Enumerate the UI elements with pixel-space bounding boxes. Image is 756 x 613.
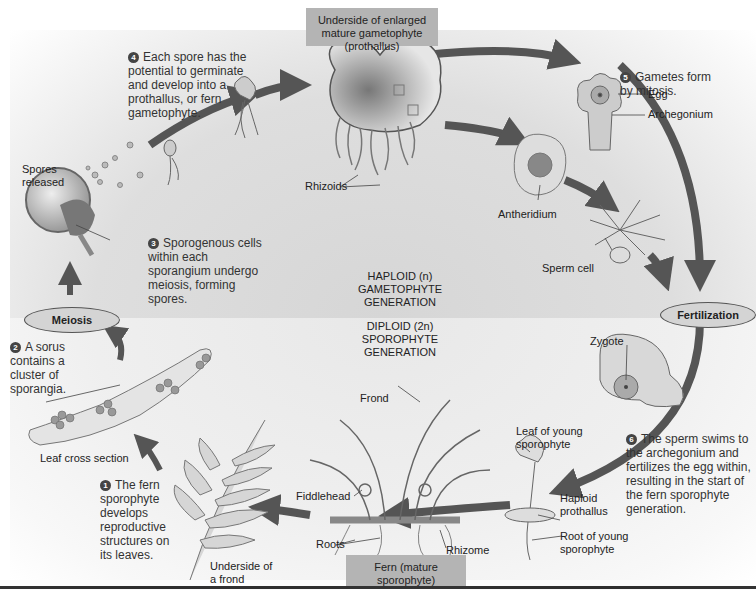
prothallus-illustration [329, 39, 440, 175]
bottom-divider [0, 586, 756, 589]
fern-life-cycle-diagram: Underside of enlarged mature gametophyte… [0, 0, 756, 613]
step-3-callout: 3Sporogenous cells within each sporangiu… [148, 236, 266, 306]
archegonium-illustration [577, 73, 621, 150]
step-5-callout: 5Gametes form by mitosis. [620, 70, 716, 98]
step-2-callout: 2A sorus contains a cluster of sporangia… [10, 340, 90, 396]
haploid-line-1: HAPLOID (n) [340, 270, 460, 283]
arrow-antheridium-to-sperm [565, 180, 610, 205]
label-archegonium: Archegonium [648, 108, 713, 121]
step-4-callout: 4Each spore has the potential to germina… [128, 50, 248, 120]
young-sporophyte-illustration [505, 435, 555, 560]
haploid-line-2: GAMETOPHYTE [340, 283, 460, 296]
step-1-callout: 1The fern sporophyte develops reproducti… [100, 478, 180, 562]
step-6-text: The sperm swims to the archegonium and f… [626, 432, 751, 516]
meiosis-oval: Meiosis [24, 307, 120, 333]
arrow-young-to-mature-fern [390, 505, 510, 515]
label-root-young-sporophyte: Root of young sporophyte [560, 530, 630, 556]
haploid-generation-label: HAPLOID (n) GAMETOPHYTE GENERATION [340, 270, 460, 309]
sporophyte-title-text: Fern (mature sporophyte) [374, 561, 438, 586]
meiosis-label: Meiosis [52, 314, 92, 326]
diploid-line-2: SPOROPHYTE [340, 333, 460, 346]
arrow-sperm-to-fertilization [650, 255, 665, 280]
diploid-line-3: GENERATION [340, 346, 460, 359]
label-frond: Frond [360, 392, 389, 405]
step-4-badge-icon: 4 [128, 52, 139, 63]
label-leaf-cross-section: Leaf cross section [40, 452, 129, 465]
step-4-text: Each spore has the potential to germinat… [128, 50, 246, 120]
fertilization-label: Fertilization [677, 309, 739, 321]
sporophyte-title-box: Fern (mature sporophyte) [346, 555, 466, 587]
step-3-text: Sporogenous cells within each sporangium… [148, 236, 262, 306]
fertilization-oval: Fertilization [660, 302, 756, 328]
step-6-badge-icon: 6 [626, 434, 637, 445]
diploid-line-1: DIPLOID (2n) [340, 320, 460, 333]
sporangium-illustration [26, 142, 143, 255]
label-sperm-cell: Sperm cell [542, 262, 594, 275]
label-egg: Egg [648, 88, 668, 101]
arrow-sorus-to-meiosis [110, 330, 121, 360]
label-spores-released: Spores released [22, 163, 82, 189]
mature-fern-illustration [310, 400, 490, 560]
step-3-badge-icon: 3 [148, 238, 159, 249]
step-2-badge-icon: 2 [10, 342, 21, 353]
label-rhizome: Rhizome [446, 544, 489, 557]
step-1-text: The fern sporophyte develops reproductiv… [100, 478, 169, 562]
step-1-badge-icon: 1 [100, 480, 111, 491]
label-antheridium: Antheridium [498, 208, 557, 221]
label-underside-frond: Underside of a frond [210, 560, 280, 586]
arrow-to-prothallus [255, 85, 300, 95]
label-rhizoids: Rhizoids [305, 180, 347, 193]
label-zygote: Zygote [590, 335, 624, 348]
diploid-generation-label: DIPLOID (2n) SPOROPHYTE GENERATION [340, 320, 460, 359]
arrow-frond-to-leaf-section [140, 440, 160, 470]
gametophyte-title-box: Underside of enlarged mature gametophyte… [306, 8, 438, 46]
arrow-prothallus-to-archegonium [425, 51, 570, 60]
label-fiddlehead: Fiddlehead [296, 490, 350, 503]
label-roots: Roots [316, 538, 345, 551]
step-5-badge-icon: 5 [620, 72, 631, 83]
label-haploid-prothallus: Haploid prothallus [560, 492, 620, 518]
label-leaf-young-sporophyte: Leaf of young sporophyte [516, 425, 596, 451]
arrow-prothallus-to-antheridium [445, 125, 520, 140]
step-6-callout: 6The sperm swims to the archegonium and … [626, 432, 754, 516]
haploid-line-3: GENERATION [340, 296, 460, 309]
frond-underside-illustration [174, 420, 275, 580]
